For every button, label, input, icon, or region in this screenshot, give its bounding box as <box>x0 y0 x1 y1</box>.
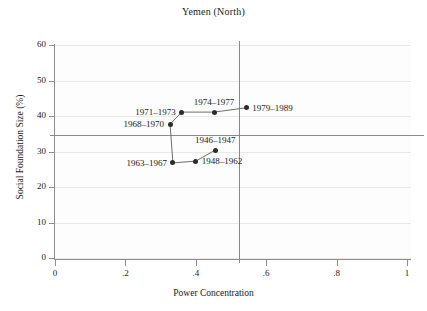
horizontal-reference-line <box>50 135 424 136</box>
x-tick-mark <box>55 260 56 266</box>
gridline-horizontal <box>55 223 411 224</box>
y-tick-label: 60 <box>16 39 46 49</box>
y-tick-label: 40 <box>16 110 46 120</box>
x-tick-label: .6 <box>251 268 281 278</box>
gridline-horizontal <box>55 45 411 46</box>
x-tick-label: .8 <box>322 268 352 278</box>
x-axis-spine <box>54 259 411 260</box>
data-point-label: 1946–1947 <box>195 135 236 145</box>
x-tick-label: 0 <box>40 268 70 278</box>
x-axis-label: Power Concentration <box>0 288 427 298</box>
data-point-label: 1971–1973 <box>135 107 176 117</box>
x-tick-mark <box>337 260 338 266</box>
x-tick-mark <box>407 260 408 266</box>
data-point-label: 1979–1989 <box>252 103 293 113</box>
data-point-marker[interactable] <box>179 110 184 115</box>
x-tick-mark <box>196 260 197 266</box>
y-tick-label: 20 <box>16 181 46 191</box>
data-point-marker[interactable] <box>213 148 218 153</box>
y-tick-label: 50 <box>16 75 46 85</box>
data-point-label: 1974–1977 <box>194 97 235 107</box>
x-tick-label: .2 <box>110 268 140 278</box>
data-point-marker[interactable] <box>193 159 198 164</box>
data-point-marker[interactable] <box>168 122 173 127</box>
y-tick-mark <box>49 187 55 188</box>
gridline-horizontal <box>55 81 411 82</box>
y-tick-mark <box>49 258 55 259</box>
plot-area <box>55 41 411 262</box>
y-tick-mark <box>49 223 55 224</box>
y-tick-mark <box>49 152 55 153</box>
gridline-horizontal <box>55 116 411 117</box>
vertical-reference-line <box>239 41 240 263</box>
y-tick-label: 0 <box>16 252 46 262</box>
data-point-label: 1963–1967 <box>126 158 167 168</box>
y-tick-mark <box>49 116 55 117</box>
data-point-marker[interactable] <box>212 110 217 115</box>
y-tick-label: 30 <box>16 146 46 156</box>
data-point-label: 1948–1962 <box>202 156 243 166</box>
chart-page: Yemen (North) Social Foundation Size (%)… <box>0 0 427 311</box>
x-tick-mark <box>125 260 126 266</box>
y-tick-mark <box>49 81 55 82</box>
gridline-horizontal <box>55 152 411 153</box>
y-tick-mark <box>49 45 55 46</box>
page-title: Yemen (North) <box>0 6 427 17</box>
x-tick-label: .4 <box>181 268 211 278</box>
gridline-horizontal <box>55 187 411 188</box>
x-tick-label: 1 <box>392 268 422 278</box>
data-point-label: 1968–1970 <box>124 119 165 129</box>
data-point-marker[interactable] <box>244 105 249 110</box>
y-tick-label: 10 <box>16 217 46 227</box>
x-tick-mark <box>266 260 267 266</box>
